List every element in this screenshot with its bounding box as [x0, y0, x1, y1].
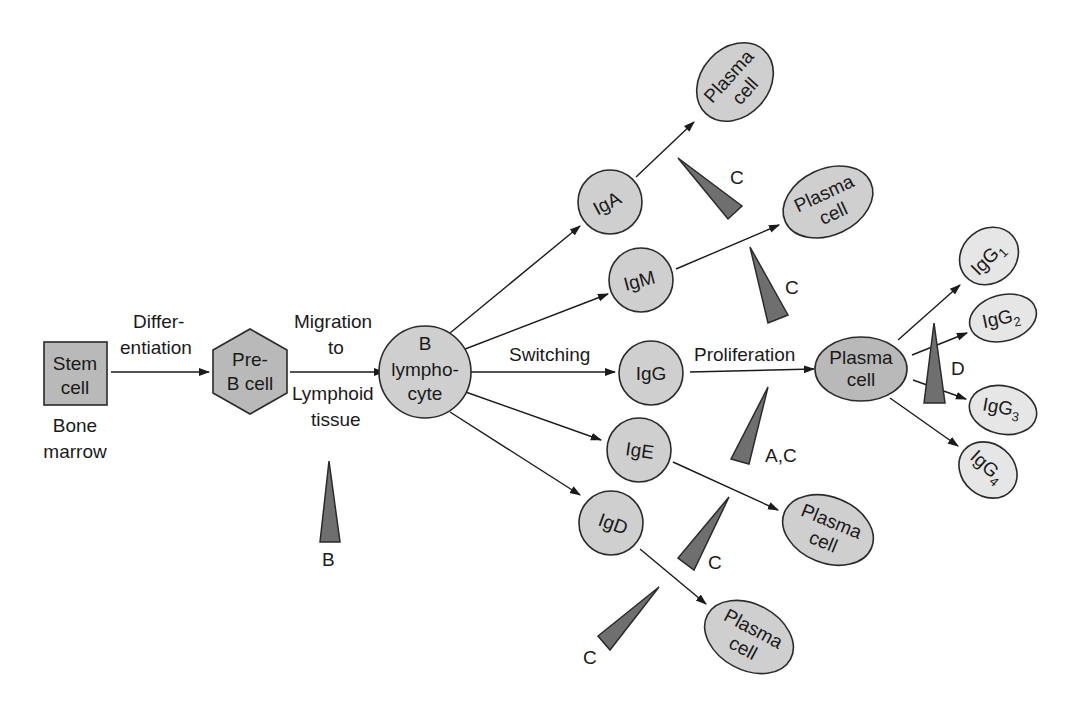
plasma-igg-line1: Plasma: [829, 347, 893, 368]
node-pre-b-cell: Pre- B cell: [213, 329, 287, 414]
edge-plasma-to-igg1: [898, 285, 960, 340]
node-iga: IgA: [578, 170, 642, 234]
edge-plasma-to-igg2: [912, 333, 967, 355]
wedge-label-igd: C: [583, 647, 597, 668]
label-migration-2: to: [328, 337, 344, 358]
wedge-label-igm: C: [785, 277, 799, 298]
node-plasma-cell-igd: Plasma cell: [692, 586, 806, 688]
wedge-label-ige: C: [708, 552, 722, 573]
label-switching: Switching: [509, 344, 590, 365]
b-lymphocyte-line2: lympho-: [391, 359, 459, 380]
node-stem-cell: Stem cell: [44, 342, 107, 405]
node-plasma-cell-igg: Plasma cell: [815, 337, 907, 401]
label-migration-4: tissue: [311, 409, 361, 430]
label-differentiation-2: entiation: [120, 337, 192, 358]
bone-marrow-line2: marrow: [43, 441, 107, 462]
wedge-igm-icon: [750, 247, 788, 323]
label-differentiation-1: Differ-: [133, 311, 184, 332]
edge-igm-to-plasma: [676, 225, 779, 269]
wedge-igg-icon: [731, 387, 768, 464]
edge-plasma-to-igg4: [890, 398, 958, 446]
wedge-label-iga: C: [730, 167, 744, 188]
wedge-subclass-icon: [924, 323, 945, 403]
wedge-label-igg: A,C: [765, 445, 797, 466]
node-igm: IgM: [609, 248, 673, 312]
node-igg2: IgG2: [964, 287, 1042, 349]
node-plasma-cell-iga: Plasma cell: [681, 27, 789, 136]
label-migration-1: Migration: [294, 311, 372, 332]
stem-cell-line2: cell: [61, 377, 90, 398]
wedge-label-subclass: D: [951, 358, 965, 379]
bone-marrow-line1: Bone: [53, 415, 97, 436]
node-igg4: IgG4: [948, 430, 1029, 510]
node-igg3: IgG3: [965, 379, 1041, 440]
pre-b-cell-line1: Pre-: [232, 349, 268, 370]
node-plasma-cell-igm: Plasma cell: [771, 152, 884, 252]
plasma-igg-line2: cell: [847, 369, 876, 390]
b-cell-diagram: B C C A,C C C D Differ- entiation Migrat…: [0, 0, 1070, 715]
node-igg1: IgG1: [948, 215, 1030, 296]
edge-blymph-to-igd: [450, 412, 580, 495]
b-lymphocyte-line3: cyte: [408, 383, 443, 404]
b-lymphocyte-line1: B: [419, 333, 432, 354]
edge-blymph-to-igm: [460, 294, 608, 351]
wedge-label-migration: B: [322, 549, 335, 570]
wedge-igd-icon: [598, 587, 659, 650]
node-igg: IgG: [619, 341, 683, 405]
igg-label: IgG: [636, 363, 667, 384]
ige-label: IgE: [624, 438, 655, 463]
edge-igg-to-plasma: [690, 369, 814, 372]
node-plasma-cell-ige: Plasma cell: [772, 482, 884, 578]
node-igd: IgD: [579, 491, 643, 555]
stem-cell-line1: Stem: [53, 353, 97, 374]
node-b-lymphocyte: B lympho- cyte: [379, 326, 471, 418]
edge-blymph-to-iga: [450, 226, 580, 333]
label-proliferation: Proliferation: [694, 344, 795, 365]
label-migration-3: Lymphoid: [292, 383, 374, 404]
node-ige: IgE: [607, 418, 671, 482]
wedge-migration-icon: [320, 461, 340, 542]
edge-iga-to-plasma: [636, 122, 694, 177]
pre-b-cell-line2: B cell: [227, 373, 273, 394]
